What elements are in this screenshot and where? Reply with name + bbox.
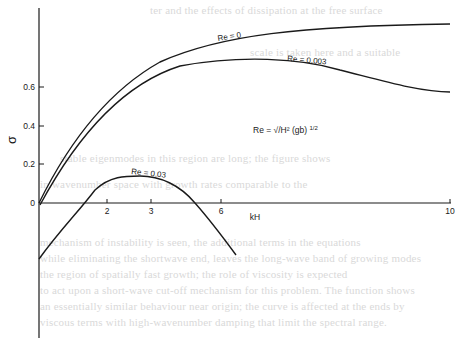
x-tick-label: 6 xyxy=(219,206,224,216)
y-tick-label: 0.2 xyxy=(23,159,35,169)
y-ticks xyxy=(39,87,44,164)
x-tick-label: 2 xyxy=(105,206,110,216)
reynolds-formula: Re = √/H² (gb) 1/2 xyxy=(253,125,318,135)
curve-re-0.03 xyxy=(39,176,236,259)
y-tick-label: 0.6 xyxy=(23,82,35,92)
label-re-0.003: Re = 0.003 xyxy=(287,54,328,66)
y-tick-label: 0.4 xyxy=(23,121,35,131)
x-tick-label: 3 xyxy=(149,206,154,216)
x-axis-label: kH xyxy=(250,212,260,222)
curve-re-0 xyxy=(39,24,450,203)
label-re-0: Re = 0 xyxy=(217,30,242,43)
y-axis-label: σ xyxy=(4,136,19,144)
curve-re-0.003 xyxy=(40,59,450,205)
y-tick-label: 0 xyxy=(30,198,35,208)
label-re-0.03: Re = 0.03 xyxy=(131,167,167,180)
x-tick-label: 10 xyxy=(445,206,455,216)
growth-rate-chart: 0.6 0.4 0.2 0 2 3 6 10 kH σ Re = 0 Re = … xyxy=(0,0,465,345)
